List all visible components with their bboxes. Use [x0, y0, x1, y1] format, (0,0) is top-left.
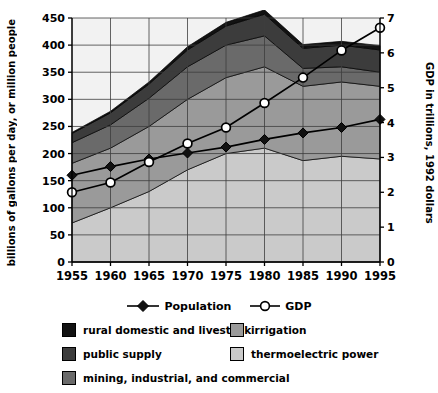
legend-item-irrigation[interactable]: irrigation: [230, 323, 392, 337]
x-tick-label: 1990: [325, 269, 357, 283]
open-circle-icon: [249, 299, 281, 313]
y-tick-label-left: 400: [42, 39, 65, 52]
legend-swatch-rural-domestic-and-livestock: [62, 323, 76, 337]
marker-open-circle: [222, 123, 231, 132]
legend-item-population[interactable]: Population: [126, 299, 231, 313]
legend-label-population: Population: [164, 300, 231, 313]
y-tick-label-right: 4: [387, 117, 395, 130]
marker-open-circle: [183, 139, 192, 148]
legend-label-mining-industrial-and-commercial: mining, industrial, and commercial: [83, 372, 290, 384]
plot-area: 0501001502002503003504004500123456719551…: [20, 10, 420, 290]
x-tick-label: 1955: [56, 269, 88, 283]
legend-swatch-public-supply: [62, 347, 76, 361]
legend-item-mining-industrial-and-commercial[interactable]: mining, industrial, and commercial: [62, 371, 230, 385]
marker-open-circle: [106, 178, 115, 187]
legend-areas: rural domestic and livestock irrigation …: [62, 318, 392, 388]
y-axis-label-right: GDP in trillions, 1992 dollars: [421, 18, 437, 268]
x-tick-label: 1980: [248, 269, 280, 283]
filled-diamond-icon: [126, 299, 160, 313]
y-tick-label-right: 3: [387, 151, 395, 164]
y-tick-label-right: 2: [387, 186, 395, 199]
chart-svg: 0501001502002503003504004500123456719551…: [20, 10, 420, 290]
legend-label-irrigation: irrigation: [251, 324, 306, 336]
y-tick-label-left: 300: [42, 93, 65, 106]
y-tick-label-left: 0: [57, 256, 65, 269]
y-tick-label-right: 0: [387, 256, 395, 269]
x-tick-label: 1965: [133, 269, 165, 283]
legend-item-gdp[interactable]: GDP: [249, 299, 311, 313]
legend-item-rural-domestic-and-livestock[interactable]: rural domestic and livestock: [62, 323, 230, 337]
legend-swatch-irrigation: [230, 323, 244, 337]
y-tick-label-right: 7: [387, 12, 395, 25]
y-tick-label-left: 100: [42, 202, 65, 215]
legend-swatch-thermoelectric-power: [230, 347, 244, 361]
legend-lines: Population GDP: [0, 297, 438, 315]
y-axis-label-left-text: billions of gallons per day, or million …: [6, 19, 17, 266]
chart-root: billions of gallons per day, or million …: [0, 0, 438, 393]
legend-swatch-mining-industrial-and-commercial: [62, 371, 76, 385]
x-tick-label: 1975: [210, 269, 242, 283]
legend-label-thermoelectric-power: thermoelectric power: [251, 348, 378, 360]
y-tick-label-right: 5: [387, 82, 395, 95]
y-tick-label-left: 150: [42, 175, 65, 188]
y-tick-label-right: 6: [387, 47, 395, 60]
legend-label-gdp: GDP: [285, 300, 311, 313]
x-tick-label: 1970: [171, 269, 203, 283]
y-tick-label-left: 450: [42, 12, 65, 25]
y-axis-label-right-text: GDP in trillions, 1992 dollars: [424, 62, 435, 224]
marker-open-circle: [145, 158, 154, 167]
legend-label-public-supply: public supply: [83, 348, 162, 360]
y-tick-label-left: 200: [42, 148, 65, 161]
x-tick-label: 1995: [364, 269, 396, 283]
marker-open-circle: [299, 73, 308, 82]
x-tick-label: 1985: [287, 269, 319, 283]
legend-label-rural-domestic-and-livestock: rural domestic and livestock: [83, 324, 251, 336]
legend-item-thermoelectric-power[interactable]: thermoelectric power: [230, 347, 392, 361]
marker-open-circle: [337, 46, 346, 55]
y-tick-label-left: 350: [42, 66, 65, 79]
y-tick-label-right: 1: [387, 221, 395, 234]
x-tick-label: 1960: [94, 269, 126, 283]
legend-item-public-supply[interactable]: public supply: [62, 347, 230, 361]
y-tick-label-left: 250: [42, 120, 65, 133]
marker-open-circle: [260, 99, 269, 108]
y-tick-label-left: 50: [50, 229, 66, 242]
y-axis-label-left: billions of gallons per day, or million …: [2, 18, 20, 268]
